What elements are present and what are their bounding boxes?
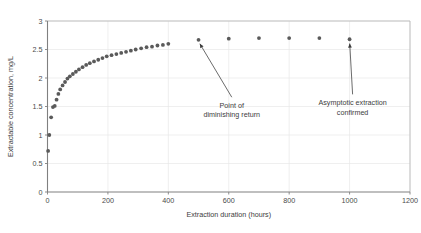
annotation-arrow-head (348, 44, 352, 48)
data-point (161, 43, 165, 47)
y-tick-label: 2 (39, 74, 43, 83)
data-point (156, 44, 160, 48)
annotations: Point ofdiminishing returnAsymptotic ext… (200, 44, 387, 120)
x-tick-label: 600 (223, 196, 235, 205)
data-point (129, 49, 133, 53)
annotation-label: confirmed (337, 108, 369, 117)
data-point (92, 60, 96, 64)
data-point (257, 36, 261, 40)
data-point (197, 38, 201, 42)
data-points (46, 36, 351, 153)
data-point (105, 54, 109, 58)
y-tick-label: 0.5 (33, 159, 43, 168)
data-point (317, 36, 321, 40)
annotation-label: Asymptotic extraction (318, 98, 386, 107)
annotation-arrow-line (350, 44, 353, 95)
x-tick-label: 1200 (402, 196, 418, 205)
y-axis-tick-labels: 00.511.522.53 (33, 17, 43, 197)
data-point (58, 88, 62, 92)
x-tick-label: 800 (283, 196, 295, 205)
annotation-label: Point of (220, 101, 244, 110)
x-tick-label: 400 (162, 196, 174, 205)
data-point (110, 53, 114, 57)
data-point (134, 48, 138, 52)
data-point (56, 92, 60, 96)
data-point (47, 133, 51, 137)
data-point (63, 80, 67, 84)
data-point (77, 68, 81, 72)
data-point (46, 149, 50, 153)
y-tick-label: 0 (39, 188, 43, 197)
data-point (139, 46, 143, 50)
data-point (68, 74, 72, 78)
scatter-chart: 00.511.522.53 020040060080010001200 Poin… (0, 0, 421, 233)
data-point (96, 58, 100, 62)
y-tick-label: 1.5 (33, 102, 43, 111)
annotation-arrow-line (200, 44, 232, 97)
data-point (61, 84, 65, 88)
x-tick-label: 0 (46, 196, 50, 205)
data-point (124, 50, 128, 54)
data-point (55, 98, 59, 102)
x-tick-label: 1000 (342, 196, 358, 205)
y-tick-label: 3 (39, 17, 43, 26)
data-point (84, 63, 88, 67)
data-point (119, 51, 123, 55)
data-point (53, 104, 57, 108)
y-tick-label: 2.5 (33, 45, 43, 54)
chart-container: 00.511.522.53 020040060080010001200 Poin… (0, 0, 421, 233)
x-tick-label: 200 (102, 196, 114, 205)
data-point (88, 61, 92, 65)
data-point (49, 115, 53, 119)
y-axis-title: Extractable concentration, mg/L (6, 56, 15, 157)
data-point (145, 45, 149, 49)
data-point (227, 37, 231, 41)
x-axis-tick-labels: 020040060080010001200 (46, 196, 419, 205)
x-axis-title: Extraction duration (hours) (186, 210, 271, 219)
data-point (71, 72, 75, 76)
data-point (287, 36, 291, 40)
data-point (348, 37, 352, 41)
y-tick-label: 1 (39, 131, 43, 140)
data-point (74, 70, 78, 74)
annotation-label: diminishing return (203, 110, 260, 119)
data-point (101, 56, 105, 60)
data-point (114, 52, 118, 56)
data-point (166, 42, 170, 46)
data-point (150, 45, 154, 49)
data-point (81, 65, 85, 69)
